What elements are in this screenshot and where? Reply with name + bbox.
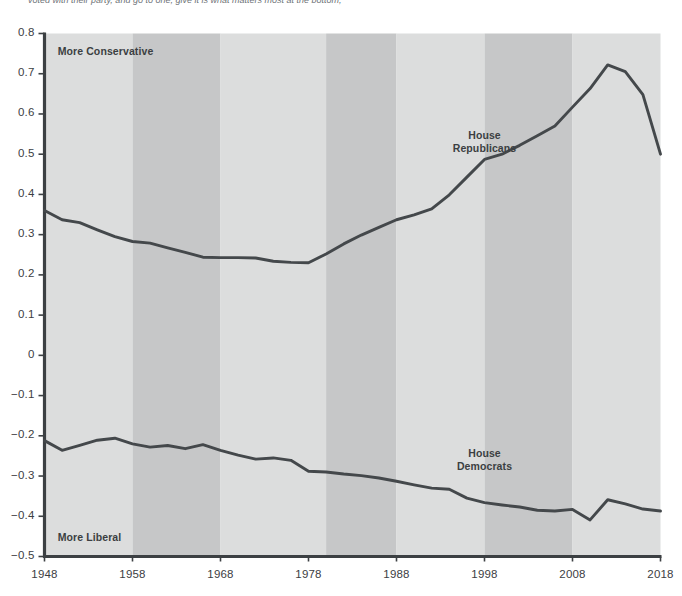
chart-canvas [0, 0, 682, 596]
y-axis-label-1: 0.7 [0, 66, 35, 78]
y-axis-label-7: 0.1 [0, 308, 35, 320]
x-axis-label-0: 1948 [15, 568, 75, 580]
annotation-line-1: House [425, 447, 545, 460]
annotation-more-conservative: More Conservative [58, 45, 154, 58]
era-band-5 [485, 34, 573, 557]
y-axis-label-3: 0.5 [0, 147, 35, 159]
annotation-line-1: House [425, 129, 545, 142]
y-axis-label-2: 0.6 [0, 106, 35, 118]
x-axis-label-2: 1968 [191, 568, 251, 580]
annotation-more-liberal: More Liberal [58, 531, 122, 544]
y-axis-label-5: 0.3 [0, 227, 35, 239]
y-axis-label-6: 0.2 [0, 267, 35, 279]
era-band-0 [45, 34, 133, 557]
era-band-1 [133, 34, 221, 557]
x-axis-label-7: 2018 [631, 568, 682, 580]
y-axis-label-11: −0.3 [0, 469, 35, 481]
y-axis-label-9: −0.1 [0, 388, 35, 400]
era-band-4 [397, 34, 485, 557]
y-axis-label-8: 0 [0, 348, 35, 360]
y-axis-label-12: −0.4 [0, 509, 35, 521]
annotation-house-democrats: HouseDemocrats [425, 447, 545, 473]
annotation-line-2: Democrats [425, 460, 545, 473]
y-axis-label-4: 0.4 [0, 187, 35, 199]
y-axis-label-0: 0.8 [0, 26, 35, 38]
y-axis-label-10: −0.2 [0, 428, 35, 440]
chart-root: voted with their party, and go to one, g… [0, 0, 682, 596]
x-axis-label-4: 1988 [367, 568, 427, 580]
y-axis-label-13: −0.5 [0, 549, 35, 561]
annotation-line-2: Republicans [425, 142, 545, 155]
x-axis-label-1: 1958 [103, 568, 163, 580]
x-axis-label-3: 1978 [279, 568, 339, 580]
x-axis-label-5: 1998 [455, 568, 515, 580]
x-axis-label-6: 2008 [543, 568, 603, 580]
annotation-house-republicans: HouseRepublicans [425, 129, 545, 155]
era-band-2 [221, 34, 327, 557]
